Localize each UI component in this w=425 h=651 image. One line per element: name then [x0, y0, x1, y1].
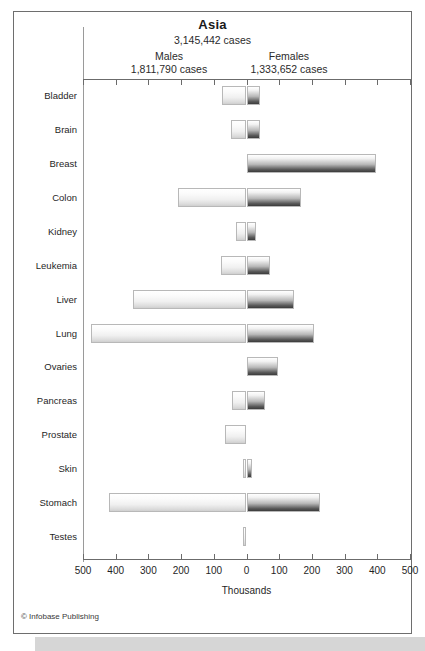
bar-female [247, 493, 321, 512]
males-label: Males [109, 50, 229, 63]
bar-row: Liver [83, 283, 410, 317]
bar-male [221, 256, 247, 275]
plot-area: BladderBrainBreastColonKidneyLeukemiaLiv… [83, 79, 410, 554]
category-label: Skin [11, 452, 77, 486]
bar-female [247, 120, 260, 139]
tick-top [83, 79, 84, 85]
bar-row: Ovaries [83, 350, 410, 384]
tick-bottom [214, 554, 215, 560]
tick-bottom [377, 554, 378, 560]
tick-bottom [181, 554, 182, 560]
tick-bottom [345, 554, 346, 560]
bar-row: Stomach [83, 486, 410, 520]
category-label: Breast [11, 147, 77, 181]
bar-female [247, 459, 252, 478]
tick-top [345, 79, 346, 85]
bar-female [247, 391, 266, 410]
x-axis-title: Thousands [83, 585, 410, 596]
category-label: Liver [11, 283, 77, 317]
tick-top [247, 79, 248, 85]
bar-male [232, 391, 246, 410]
bar-male [243, 527, 247, 546]
page-bottom-band [35, 637, 425, 651]
category-label: Brain [11, 113, 77, 147]
x-tick-label: 500 [390, 565, 425, 576]
bar-male [236, 222, 246, 241]
bar-male [178, 188, 247, 207]
bar-row: Skin [83, 452, 410, 486]
bar-male [91, 324, 246, 343]
tick-bottom [410, 554, 411, 560]
copyright-credit: © Infobase Publishing [21, 612, 99, 621]
bar-male [225, 425, 246, 444]
bar-row: Pancreas [83, 384, 410, 418]
tick-bottom [116, 554, 117, 560]
category-label: Testes [11, 520, 77, 554]
bar-female [247, 86, 260, 105]
males-legend: Males 1,811,790 cases [109, 50, 229, 76]
category-label: Pancreas [11, 384, 77, 418]
category-label: Leukemia [11, 249, 77, 283]
tick-top [279, 79, 280, 85]
bar-row: Testes [83, 520, 410, 554]
tick-top [377, 79, 378, 85]
bar-female [247, 357, 279, 376]
males-cases: 1,811,790 cases [109, 63, 229, 76]
bar-male [133, 290, 247, 309]
tick-top [410, 79, 411, 85]
category-label: Colon [11, 181, 77, 215]
category-label: Ovaries [11, 350, 77, 384]
bar-female [247, 154, 376, 173]
bar-row: Kidney [83, 215, 410, 249]
bar-row: Lung [83, 317, 410, 351]
tick-top [116, 79, 117, 85]
tick-bottom [279, 554, 280, 560]
bar-female [247, 290, 294, 309]
category-label: Kidney [11, 215, 77, 249]
bar-female [247, 222, 257, 241]
females-label: Females [229, 50, 349, 63]
bar-male [109, 493, 246, 512]
females-cases: 1,333,652 cases [229, 63, 349, 76]
chart-figure: Asia 3,145,442 cases Males 1,811,790 cas… [13, 11, 412, 634]
tick-bottom [148, 554, 149, 560]
tick-top [148, 79, 149, 85]
chart-total-cases: 3,145,442 cases [14, 34, 411, 46]
bar-row: Colon [83, 181, 410, 215]
tick-top [181, 79, 182, 85]
tick-bottom [312, 554, 313, 560]
bar-male [222, 86, 247, 105]
bar-row: Brain [83, 113, 410, 147]
bar-row: Prostate [83, 418, 410, 452]
category-label: Lung [11, 317, 77, 351]
bar-female [247, 256, 271, 275]
chart-title: Asia [14, 17, 411, 32]
bar-female [247, 188, 301, 207]
tick-top [214, 79, 215, 85]
tick-bottom [83, 554, 84, 560]
category-label: Stomach [11, 486, 77, 520]
tick-bottom [247, 554, 248, 560]
category-label: Prostate [11, 418, 77, 452]
tick-top [312, 79, 313, 85]
bar-row: Leukemia [83, 249, 410, 283]
bar-male [231, 120, 247, 139]
females-legend: Females 1,333,652 cases [229, 50, 349, 76]
bar-row: Breast [83, 147, 410, 181]
bar-female [247, 324, 314, 343]
category-label: Bladder [11, 79, 77, 113]
